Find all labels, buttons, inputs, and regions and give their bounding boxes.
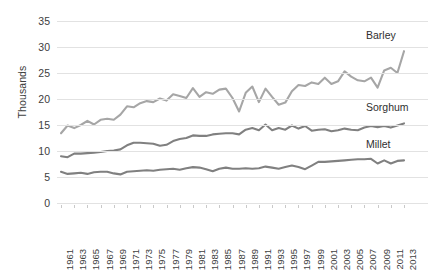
x-axis-tick-mark xyxy=(285,205,286,208)
series-line-barley xyxy=(61,51,404,133)
x-axis-tick-mark xyxy=(193,205,194,208)
x-axis-tick-label: 1993 xyxy=(276,249,286,270)
x-axis-tick-mark xyxy=(180,205,181,208)
gridline xyxy=(57,125,428,126)
y-axis-tick-label: 5 xyxy=(16,172,50,183)
x-axis-tick-mark xyxy=(61,205,62,208)
x-axis-tick-label: 2011 xyxy=(395,249,405,269)
series-line-sorghum xyxy=(61,123,404,157)
x-axis-tick-mark xyxy=(74,205,75,208)
x-axis-tick-label: 1971 xyxy=(131,249,141,270)
x-axis-tick-mark xyxy=(404,205,405,208)
x-axis-tick-label: 1963 xyxy=(78,249,88,270)
x-axis-tick-mark xyxy=(114,205,115,208)
x-axis-tick-label: 1977 xyxy=(171,249,181,270)
x-axis-tick-label: 1961 xyxy=(65,249,75,270)
y-axis-tick-label: 20 xyxy=(16,94,50,105)
y-axis-tick-label: 0 xyxy=(16,198,50,209)
x-axis-tick-label: 1983 xyxy=(210,249,220,270)
x-axis-tick-label: 2003 xyxy=(342,249,352,270)
x-axis-tick-mark xyxy=(338,205,339,208)
x-axis-tick-label: 2009 xyxy=(382,249,392,270)
x-axis-tick-mark xyxy=(233,205,234,208)
series-label-millet: Millet xyxy=(366,138,391,150)
x-axis-tick-mark xyxy=(272,205,273,208)
x-axis-tick-mark xyxy=(140,205,141,208)
x-axis-tick-label: 1989 xyxy=(250,249,260,270)
x-axis-tick-label: 1995 xyxy=(289,249,299,270)
series-label-barley: Barley xyxy=(366,29,396,41)
x-axis-tick-mark xyxy=(378,205,379,208)
x-axis-tick-mark xyxy=(364,205,365,208)
x-axis-tick-mark xyxy=(101,205,102,208)
y-axis-tick-label: 30 xyxy=(16,42,50,53)
x-axis-tick-label: 1999 xyxy=(316,249,326,270)
x-axis-tick-mark xyxy=(325,205,326,208)
x-axis-tick-mark xyxy=(87,205,88,208)
x-axis-tick-mark xyxy=(167,205,168,208)
y-axis-tick-label: 15 xyxy=(16,120,50,131)
gridline xyxy=(57,177,428,178)
x-axis-tick-label: 1979 xyxy=(184,249,194,270)
x-axis-ticks: 1961196319651967196919711973197519771979… xyxy=(57,205,428,251)
gridline xyxy=(57,99,428,100)
x-axis-tick-mark xyxy=(219,205,220,208)
x-axis-tick-mark xyxy=(391,205,392,208)
gridline xyxy=(57,47,428,48)
x-axis-tick-label: 2001 xyxy=(329,249,339,270)
x-axis-tick-mark xyxy=(153,205,154,208)
gridline xyxy=(57,73,428,74)
x-axis-tick-label: 1981 xyxy=(197,249,207,270)
x-axis-tick-label: 1967 xyxy=(105,249,115,270)
x-axis-tick-label: 1973 xyxy=(144,249,154,270)
x-axis-tick-mark xyxy=(246,205,247,208)
series-label-sorghum: Sorghum xyxy=(366,101,409,113)
y-axis-tick-label: 25 xyxy=(16,68,50,79)
x-axis-tick-mark xyxy=(298,205,299,208)
series-line-millet xyxy=(61,159,404,175)
x-axis-tick-label: 1987 xyxy=(237,249,247,270)
x-axis-tick-label: 2013 xyxy=(408,249,418,270)
x-axis-tick-mark xyxy=(259,205,260,208)
x-axis-tick-mark xyxy=(206,205,207,208)
y-axis-tick-label: 10 xyxy=(16,146,50,157)
gridline xyxy=(57,21,428,22)
y-axis-tick-label: 35 xyxy=(16,16,50,27)
x-axis-tick-label: 2007 xyxy=(368,249,378,270)
x-axis-tick-label: 2005 xyxy=(355,249,365,270)
x-axis-tick-label: 1965 xyxy=(91,249,101,270)
x-axis-tick-label: 1997 xyxy=(302,249,312,270)
x-axis-tick-mark xyxy=(312,205,313,208)
x-axis-tick-label: 1969 xyxy=(118,249,128,270)
gridline xyxy=(57,151,428,152)
x-axis-tick-label: 1985 xyxy=(223,249,233,270)
gridline xyxy=(57,203,428,204)
x-axis-tick-mark xyxy=(127,205,128,208)
x-axis-tick-mark xyxy=(351,205,352,208)
x-axis-tick-label: 1991 xyxy=(263,249,273,270)
y-axis-ticks: 35302520151050 xyxy=(12,0,50,251)
x-axis-tick-label: 1975 xyxy=(157,249,167,270)
clipped-caption xyxy=(0,248,436,251)
